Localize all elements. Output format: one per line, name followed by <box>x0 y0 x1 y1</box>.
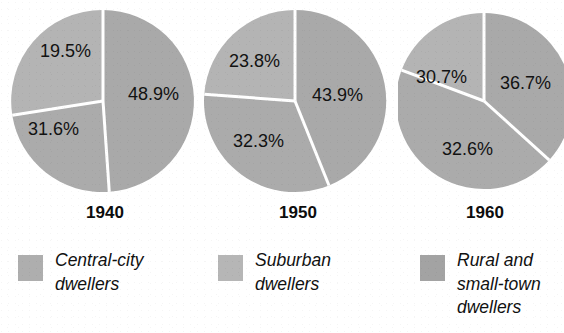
pie-label-central-city-1940: 48.9% <box>128 84 179 104</box>
pie-label-central-city-1950: 43.9% <box>312 85 363 105</box>
legend-item-suburban: Suburban dwellers <box>218 245 398 296</box>
legend-swatch-rural-icon <box>420 255 445 281</box>
legend-swatch-suburban-icon <box>218 255 243 281</box>
legend-label-rural: Rural and small-town dwellers <box>457 245 541 320</box>
pie-chart-row: 48.9% 31.6% 19.5% 1940 43. <box>0 0 564 240</box>
pie-label-rural-1960: 32.6% <box>442 139 493 159</box>
pie-svg-1960: 36.7% 32.6% 30.7% <box>398 0 564 200</box>
chart-legend: Central-city dwellers Suburban dwellers … <box>0 245 564 333</box>
pie-year-label-1940: 1940 <box>10 203 200 223</box>
pie-year-label-1960: 1960 <box>390 203 564 223</box>
pie-year-label-1950: 1950 <box>203 203 393 223</box>
pie-label-suburban-1950: 23.8% <box>229 51 280 71</box>
pie-chart-1950: 43.9% 32.3% 23.8% 1950 <box>203 0 393 200</box>
pie-chart-1960: 36.7% 32.6% 30.7% 1960 <box>398 0 564 200</box>
legend-item-rural: Rural and small-town dwellers <box>420 245 564 320</box>
pie-label-suburban-1940: 19.5% <box>40 41 91 61</box>
pie-chart-1940: 48.9% 31.6% 19.5% 1940 <box>10 0 200 200</box>
legend-swatch-central-city-icon <box>18 255 43 281</box>
pie-label-suburban-1960: 30.7% <box>416 67 467 87</box>
legend-label-suburban: Suburban dwellers <box>255 245 331 296</box>
pie-chart-figure: 48.9% 31.6% 19.5% 1940 43. <box>0 0 564 333</box>
legend-label-central-city: Central-city dwellers <box>55 245 144 296</box>
legend-item-central-city: Central-city dwellers <box>18 245 198 296</box>
pie-slice-suburban-1940 <box>11 10 103 115</box>
pie-svg-1940: 48.9% 31.6% 19.5% <box>10 0 200 200</box>
pie-label-rural-1950: 32.3% <box>233 131 284 151</box>
pie-slice-rural-1940 <box>12 101 109 192</box>
pie-svg-1950: 43.9% 32.3% 23.8% <box>203 0 393 200</box>
pie-label-central-city-1960: 36.7% <box>500 73 551 93</box>
pie-label-rural-1940: 31.6% <box>28 119 79 139</box>
